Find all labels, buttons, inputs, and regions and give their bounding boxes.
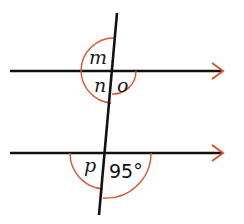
angle-label-p: p [84, 154, 96, 176]
angle-label-n: n [94, 74, 106, 96]
angle-label-o: o [117, 74, 128, 96]
angle-label-m: m [89, 46, 107, 68]
angle-diagram: m n o p 95° [0, 0, 244, 224]
transversal-line [99, 13, 117, 215]
angle-label-95: 95° [109, 160, 143, 182]
